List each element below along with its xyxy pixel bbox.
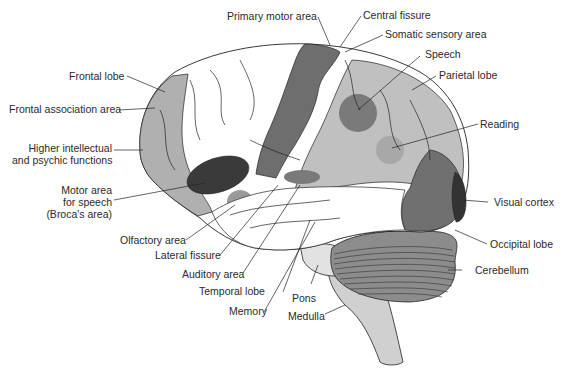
label-frontal-association-area: Frontal association area (9, 103, 121, 115)
label-line: and psychic functions (12, 154, 112, 166)
label-cerebellum: Cerebellum (475, 264, 529, 276)
label-line: Higher intellectual (12, 142, 112, 154)
label-reading: Reading (480, 118, 519, 130)
label-olfactory-area: Olfactory area (120, 234, 186, 246)
label-pons: Pons (292, 292, 316, 304)
label-occipital-lobe: Occipital lobe (490, 238, 553, 250)
label-speech: Speech (425, 48, 461, 60)
label-frontal-lobe: Frontal lobe (69, 70, 124, 82)
label-central-fissure: Central fissure (363, 9, 431, 21)
label-parietal-lobe: Parietal lobe (439, 69, 497, 81)
label-motor-area-speech: Motor area for speech (Broca's area) (20, 184, 112, 220)
label-memory: Memory (229, 305, 267, 317)
label-temporal-lobe: Temporal lobe (199, 285, 265, 297)
label-line: (Broca's area) (20, 208, 112, 220)
label-line: for speech (20, 196, 112, 208)
label-lateral-fissure: Lateral fissure (155, 249, 221, 261)
speech-region (339, 94, 377, 132)
label-higher-intellectual: Higher intellectual and psychic function… (12, 142, 112, 166)
auditory-area-region (284, 170, 320, 184)
label-line: Motor area (20, 184, 112, 196)
label-primary-motor-area: Primary motor area (227, 10, 317, 22)
label-medulla: Medulla (288, 310, 325, 322)
label-auditory-area: Auditory area (182, 268, 244, 280)
label-visual-cortex: Visual cortex (494, 196, 554, 208)
label-somatic-sensory-area: Somatic sensory area (385, 28, 487, 40)
